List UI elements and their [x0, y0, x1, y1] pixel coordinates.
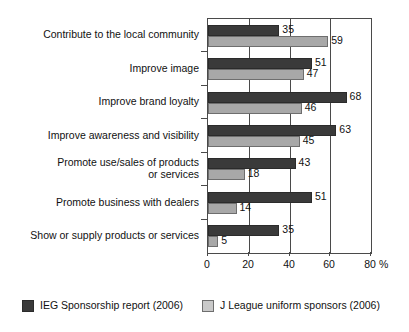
bar: [208, 25, 279, 36]
category-label: Promote business with dealers: [0, 196, 199, 209]
bar-group: 355: [208, 220, 371, 253]
plot-inner: 355951476846634543185114355: [208, 19, 371, 253]
category-label: Contribute to the local community: [0, 28, 199, 41]
bar-group: 6846: [208, 86, 371, 119]
bar-value-label: 18: [248, 168, 260, 179]
bar: [208, 103, 302, 114]
bar-value-label: 59: [331, 35, 343, 46]
horizontal-bar-chart: Contribute to the local communityImprove…: [0, 0, 409, 332]
bar: [208, 92, 347, 103]
bar: [208, 169, 245, 180]
category-axis: Contribute to the local communityImprove…: [0, 18, 203, 252]
legend-item: IEG Sponsorship report (2006): [22, 299, 183, 312]
bar-value-label: 68: [350, 91, 362, 102]
bar-value-label: 5: [221, 235, 227, 246]
x-axis-unit-label: %: [379, 258, 388, 270]
bar-group: 5114: [208, 186, 371, 219]
category-label: Show or supply products or services: [0, 229, 199, 242]
bar-group: 4318: [208, 153, 371, 186]
category-label: Improve awareness and visibility: [0, 129, 199, 142]
category-label: Improve image: [0, 62, 199, 75]
x-axis-tick-label: 0: [192, 258, 222, 270]
bar: [208, 203, 237, 214]
x-axis-tick: [207, 252, 208, 256]
x-axis-tick: [329, 252, 330, 256]
category-label: Improve brand loyalty: [0, 95, 199, 108]
legend-swatch: [22, 300, 34, 312]
bar-group: 3559: [208, 19, 371, 52]
plot-area: 355951476846634543185114355: [207, 18, 372, 254]
bar-value-label: 45: [303, 135, 315, 146]
bar: [208, 69, 304, 80]
bar: [208, 58, 312, 69]
bar-value-label: 51: [315, 191, 327, 202]
bar-value-label: 35: [282, 224, 294, 235]
bar: [208, 36, 328, 47]
x-axis-tick-label: 20: [233, 258, 263, 270]
bar-value-label: 46: [305, 102, 317, 113]
x-axis-tick: [370, 252, 371, 256]
bar: [208, 136, 300, 147]
bar-value-label: 63: [339, 124, 351, 135]
x-axis-tick-label: 40: [274, 258, 304, 270]
bar-value-label: 47: [307, 68, 319, 79]
x-axis-tick: [248, 252, 249, 256]
bar: [208, 225, 279, 236]
bar-group: 6345: [208, 119, 371, 152]
bar-value-label: 43: [299, 157, 311, 168]
chart-legend: IEG Sponsorship report (2006)J League un…: [0, 299, 409, 319]
legend-label: IEG Sponsorship report (2006): [40, 299, 183, 312]
bar-value-label: 14: [240, 202, 252, 213]
category-label: Promote use/sales of products or service…: [0, 156, 199, 181]
bar: [208, 192, 312, 203]
legend-label: J League uniform sponsors (2006): [220, 299, 380, 312]
bar: [208, 125, 336, 136]
legend-item: J League uniform sponsors (2006): [202, 299, 380, 312]
x-axis-tick: [289, 252, 290, 256]
legend-swatch: [202, 300, 214, 312]
x-axis-tick-label: 60: [314, 258, 344, 270]
bar-group: 5147: [208, 52, 371, 85]
bar-value-label: 35: [282, 24, 294, 35]
bar: [208, 236, 218, 247]
